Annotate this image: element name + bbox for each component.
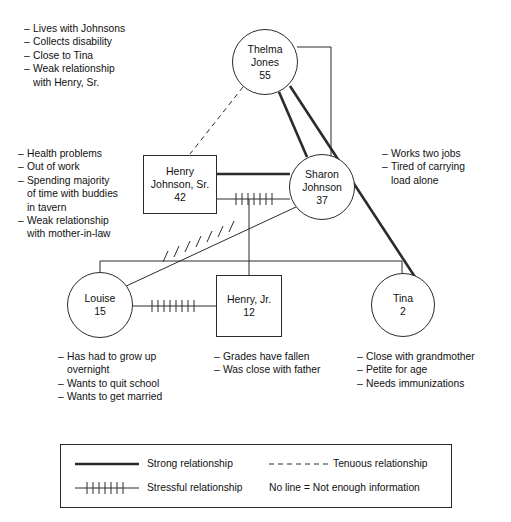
legend-label-strong: Strong relationship (147, 458, 233, 469)
node-sharon-name-2: Johnson (302, 181, 342, 194)
notes-louise: –Has had to grow upovernight–Wants to qu… (58, 350, 162, 404)
note-dash: – (24, 22, 33, 35)
node-sharon-name-1: Sharon (305, 168, 339, 181)
node-louise-name-1: Louise (85, 292, 116, 305)
notes-sharon: –Works two jobs–Tired of carryingload al… (382, 147, 465, 187)
node-thelma-name-1: Thelma (247, 43, 282, 56)
note-line: with Henry, Sr. (24, 76, 125, 89)
legend-label-stressful: Stressful relationship (147, 482, 243, 493)
line-louise-henryjr-stressful (133, 300, 216, 312)
note-line: –Out of work (18, 160, 118, 173)
node-henry-sr-name-1: Henry (166, 165, 194, 178)
note-dash: – (58, 390, 67, 403)
node-henry-jr-name-1: Henry, Jr. (227, 293, 271, 306)
note-line: –Was close with father (214, 363, 320, 376)
notes-thelma: –Lives with Johnsons–Collects disability… (24, 22, 125, 89)
genogram-canvas: Thelma Jones 55 Henry Johnson, Sr. 42 Sh… (0, 0, 511, 522)
node-thelma[interactable]: Thelma Jones 55 (232, 29, 298, 95)
node-henry-jr[interactable]: Henry, Jr. 12 (216, 275, 282, 337)
line-thelma-sharon-strong (279, 92, 307, 157)
notes-tina: –Close with grandmother–Petite for age–N… (357, 350, 475, 390)
node-louise-age: 15 (94, 305, 106, 318)
node-tina-age: 2 (400, 305, 406, 318)
note-line: overnight (58, 363, 162, 376)
note-line: –Has had to grow up (58, 350, 162, 363)
legend-swatches (61, 445, 453, 509)
note-dash: – (357, 350, 366, 363)
node-henry-sr[interactable]: Henry Johnson, Sr. 42 (143, 155, 217, 214)
note-dash: – (214, 363, 223, 376)
note-dash: – (24, 35, 33, 48)
note-line: –Tired of carrying (382, 160, 465, 173)
note-dash: – (357, 377, 366, 390)
note-line: –Needs immunizations (357, 377, 475, 390)
node-tina[interactable]: Tina 2 (371, 273, 435, 337)
node-sharon[interactable]: Sharon Johnson 37 (289, 154, 355, 220)
note-line: –Weak relationship (18, 214, 118, 227)
node-thelma-age: 55 (259, 69, 271, 82)
note-dash: – (24, 62, 33, 75)
node-tina-name-1: Tina (393, 292, 413, 305)
note-line: –Close to Tina (24, 49, 125, 62)
legend-label-tenuous: Tenuous relationship (333, 458, 427, 469)
legend-swatch-stressful (75, 482, 139, 494)
note-dash: – (18, 147, 27, 160)
note-line: with mother-in-law (18, 227, 118, 240)
node-henry-sr-name-2: Johnson, Sr. (151, 178, 209, 191)
note-dash: – (18, 214, 27, 227)
note-dash: – (382, 160, 391, 173)
note-line: –Wants to quit school (58, 377, 162, 390)
note-line: in tavern (18, 201, 118, 214)
note-dash: – (18, 160, 27, 173)
note-line: –Collects disability (24, 35, 125, 48)
note-dash: – (58, 350, 67, 363)
note-line: –Health problems (18, 147, 118, 160)
note-line: –Works two jobs (382, 147, 465, 160)
note-dash: – (58, 377, 67, 390)
note-line: –Grades have fallen (214, 350, 320, 363)
node-sharon-age: 37 (316, 194, 328, 207)
node-henry-sr-age: 42 (174, 191, 186, 204)
note-dash: – (24, 49, 33, 62)
line-henrysr-sharon-stressful (217, 193, 290, 205)
note-line: of time with buddies (18, 187, 118, 200)
note-line: –Close with grandmother (357, 350, 475, 363)
node-louise[interactable]: Louise 15 (67, 272, 133, 338)
legend-label-none: No line = Not enough information (269, 482, 420, 493)
note-dash: – (382, 147, 391, 160)
note-line: load alone (382, 174, 465, 187)
sibling-bar (100, 261, 402, 275)
note-line: –Lives with Johnsons (24, 22, 125, 35)
notes-henry-jr: –Grades have fallen–Was close with fathe… (214, 350, 320, 377)
note-line: –Weak relationship (24, 62, 125, 75)
notes-henry-sr: –Health problems–Out of work–Spending ma… (18, 147, 118, 241)
note-dash: – (18, 174, 27, 187)
line-thelma-henrysr-tenuous (190, 87, 243, 154)
note-line: –Wants to get married (58, 390, 162, 403)
note-line: –Spending majority (18, 174, 118, 187)
node-thelma-name-2: Jones (251, 56, 279, 69)
legend-box: Strong relationship Tenuous relationship… (60, 444, 452, 508)
note-line: –Petite for age (357, 363, 475, 376)
node-henry-jr-age: 12 (243, 306, 255, 319)
note-dash: – (357, 363, 366, 376)
note-dash: – (214, 350, 223, 363)
